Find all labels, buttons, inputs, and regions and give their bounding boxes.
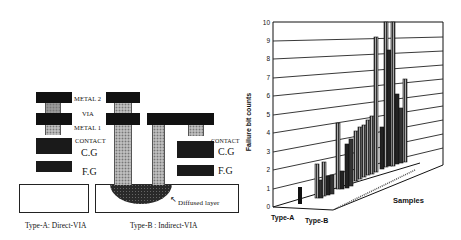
x-axis-label: Samples [393, 196, 424, 205]
category-label-type-b: Type-B [305, 217, 328, 225]
y-axis-label: Failure bit counts [245, 93, 252, 151]
svg-text:5: 5 [266, 111, 270, 118]
category-label-type-a: Type-A [271, 214, 294, 222]
svg-text:9: 9 [266, 37, 270, 44]
svg-text:7: 7 [266, 74, 270, 81]
svg-text:2: 2 [266, 166, 270, 173]
svg-text:3: 3 [266, 148, 270, 155]
bars-type-b [315, 22, 407, 198]
svg-text:8: 8 [266, 55, 270, 62]
bar-type-a [298, 187, 302, 204]
svg-text:4: 4 [266, 129, 270, 136]
y-tick-labels: 012 345 678 910 [263, 19, 271, 210]
svg-text:6: 6 [266, 92, 270, 99]
svg-text:0: 0 [266, 203, 270, 210]
svg-text:1: 1 [266, 185, 270, 192]
svg-text:10: 10 [263, 19, 271, 26]
chart-frame [273, 22, 443, 210]
failure-bit-chart: 012 345 678 910 Failure bit counts [0, 0, 461, 240]
